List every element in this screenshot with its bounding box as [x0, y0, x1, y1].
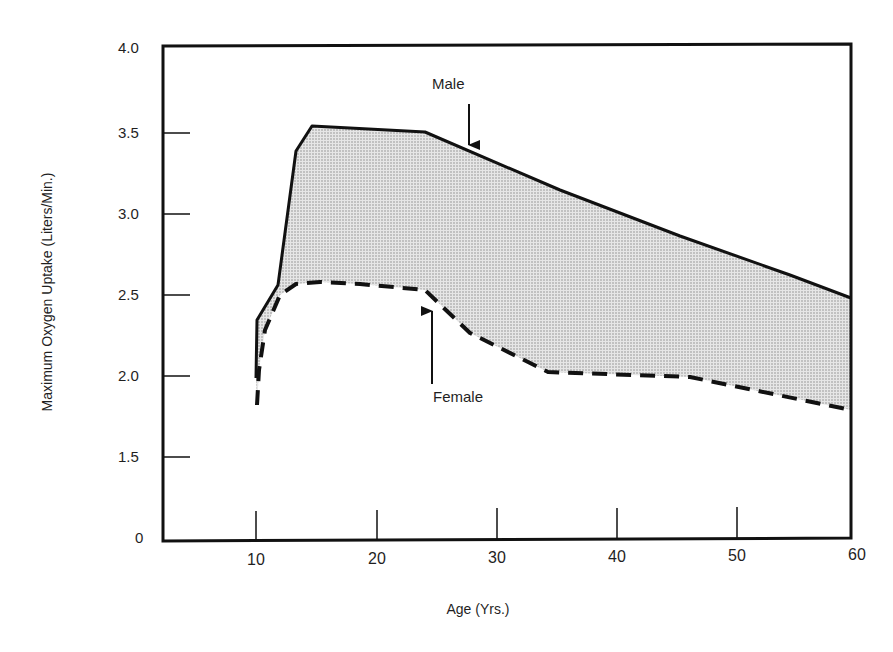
- y-axis-title: Maximum Oxygen Uptake (Liters/Min.): [39, 173, 55, 412]
- x-tick-label: 60: [848, 546, 866, 563]
- y-axis-ticks: [163, 133, 190, 457]
- x-tick-label: 50: [728, 547, 746, 564]
- y-tick-label: 1.5: [118, 448, 139, 465]
- y-tick-label: 2.0: [118, 367, 139, 384]
- x-tick-label: 30: [488, 549, 506, 566]
- y-tick-label: 2.5: [118, 286, 139, 303]
- y-axis-labels: 4.0 3.5 3.0 2.5 2.0 1.5 0: [118, 39, 143, 546]
- x-axis-title: Age (Yrs.): [446, 601, 509, 617]
- y-tick-label: 0: [135, 529, 143, 546]
- male-label: Male: [432, 75, 465, 92]
- x-axis-ticks: [256, 507, 737, 540]
- shaded-range-area: [256, 126, 851, 410]
- y-tick-label: 3.0: [118, 205, 139, 222]
- x-tick-label: 20: [368, 550, 386, 567]
- x-tick-label: 10: [247, 551, 265, 568]
- x-tick-label: 40: [608, 548, 626, 565]
- oxygen-uptake-chart: 4.0 3.5 3.0 2.5 2.0 1.5 0 10 20 30 40 50…: [0, 0, 893, 652]
- female-label: Female: [433, 388, 483, 405]
- y-tick-label: 3.5: [118, 124, 139, 141]
- x-axis-labels: 10 20 30 40 50 60: [247, 546, 866, 568]
- y-tick-label: 4.0: [118, 39, 139, 56]
